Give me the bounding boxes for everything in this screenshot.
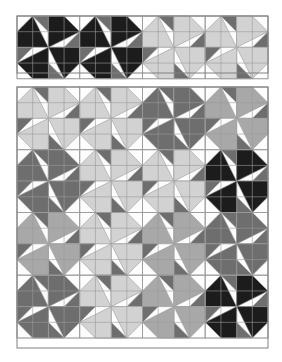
star-quadrant bbox=[48, 213, 79, 244]
star-quadrant bbox=[143, 16, 174, 47]
star-quadrant bbox=[80, 87, 111, 118]
star-quadrant bbox=[237, 87, 268, 118]
star-quadrant bbox=[174, 307, 205, 338]
quilt-block bbox=[80, 213, 143, 276]
star-quadrant bbox=[48, 150, 79, 181]
quilt-block bbox=[143, 16, 206, 79]
star-quadrant bbox=[143, 181, 174, 212]
quilt-diagram bbox=[0, 0, 282, 362]
star-quadrant bbox=[205, 275, 236, 306]
star-quadrant bbox=[143, 118, 174, 149]
star-quadrant bbox=[143, 47, 174, 78]
star-quadrant bbox=[111, 213, 142, 244]
star-quadrant bbox=[17, 307, 48, 338]
star-quadrant bbox=[174, 118, 205, 149]
star-quadrant bbox=[17, 16, 48, 47]
quilt-block bbox=[205, 213, 268, 276]
star-quadrant bbox=[17, 118, 48, 149]
quilt-block bbox=[143, 150, 206, 213]
star-quadrant bbox=[17, 87, 48, 118]
star-quadrant bbox=[48, 16, 79, 47]
star-quadrant bbox=[111, 87, 142, 118]
star-quadrant bbox=[237, 181, 268, 212]
star-quadrant bbox=[143, 275, 174, 306]
star-quadrant bbox=[205, 16, 236, 47]
star-quadrant bbox=[237, 150, 268, 181]
star-quadrant bbox=[111, 118, 142, 149]
star-quadrant bbox=[111, 244, 142, 275]
star-quadrant bbox=[17, 213, 48, 244]
star-quadrant bbox=[48, 307, 79, 338]
star-quadrant bbox=[111, 150, 142, 181]
star-quadrant bbox=[111, 307, 142, 338]
star-quadrant bbox=[143, 87, 174, 118]
star-quadrant bbox=[237, 307, 268, 338]
star-quadrant bbox=[205, 213, 236, 244]
star-quadrant bbox=[111, 181, 142, 212]
quilt-block bbox=[143, 275, 206, 338]
star-quadrant bbox=[17, 47, 48, 78]
star-quadrant bbox=[80, 244, 111, 275]
star-quadrant bbox=[48, 118, 79, 149]
star-quadrant bbox=[80, 307, 111, 338]
star-quadrant bbox=[80, 181, 111, 212]
quilt-block bbox=[205, 275, 268, 338]
quilt-panel bbox=[17, 16, 268, 79]
star-quadrant bbox=[205, 47, 236, 78]
quilt-block bbox=[17, 87, 80, 150]
star-quadrant bbox=[80, 16, 111, 47]
star-quadrant bbox=[174, 244, 205, 275]
star-quadrant bbox=[205, 150, 236, 181]
star-quadrant bbox=[48, 181, 79, 212]
quilt-block bbox=[143, 87, 206, 150]
star-quadrant bbox=[80, 150, 111, 181]
star-quadrant bbox=[174, 181, 205, 212]
star-quadrant bbox=[205, 87, 236, 118]
star-quadrant bbox=[237, 275, 268, 306]
quilt-block bbox=[80, 16, 143, 79]
star-quadrant bbox=[174, 275, 205, 306]
star-quadrant bbox=[205, 181, 236, 212]
star-quadrant bbox=[237, 47, 268, 78]
star-quadrant bbox=[205, 307, 236, 338]
quilt-block bbox=[205, 16, 268, 79]
star-quadrant bbox=[48, 87, 79, 118]
star-quadrant bbox=[143, 150, 174, 181]
star-quadrant bbox=[80, 213, 111, 244]
star-quadrant bbox=[174, 87, 205, 118]
star-quadrant bbox=[111, 47, 142, 78]
star-quadrant bbox=[143, 244, 174, 275]
star-quadrant bbox=[17, 150, 48, 181]
star-quadrant bbox=[237, 16, 268, 47]
quilt-block bbox=[80, 150, 143, 213]
quilt-block bbox=[17, 275, 80, 338]
quilt-block bbox=[80, 275, 143, 338]
star-quadrant bbox=[111, 275, 142, 306]
star-quadrant bbox=[48, 244, 79, 275]
quilt-canvas bbox=[0, 0, 282, 362]
star-quadrant bbox=[111, 16, 142, 47]
star-quadrant bbox=[143, 307, 174, 338]
quilt-block bbox=[143, 213, 206, 276]
star-quadrant bbox=[237, 244, 268, 275]
quilt-block bbox=[205, 87, 268, 150]
quilt-panel bbox=[17, 87, 268, 348]
star-quadrant bbox=[48, 275, 79, 306]
star-quadrant bbox=[174, 213, 205, 244]
quilt-block bbox=[17, 16, 80, 79]
star-quadrant bbox=[17, 244, 48, 275]
star-quadrant bbox=[17, 275, 48, 306]
star-quadrant bbox=[17, 181, 48, 212]
star-quadrant bbox=[48, 47, 79, 78]
star-quadrant bbox=[205, 244, 236, 275]
star-quadrant bbox=[143, 213, 174, 244]
star-quadrant bbox=[174, 150, 205, 181]
quilt-block bbox=[17, 150, 80, 213]
star-quadrant bbox=[174, 16, 205, 47]
star-quadrant bbox=[237, 118, 268, 149]
star-quadrant bbox=[174, 47, 205, 78]
star-quadrant bbox=[80, 118, 111, 149]
star-quadrant bbox=[80, 47, 111, 78]
quilt-block bbox=[17, 213, 80, 276]
star-quadrant bbox=[205, 118, 236, 149]
